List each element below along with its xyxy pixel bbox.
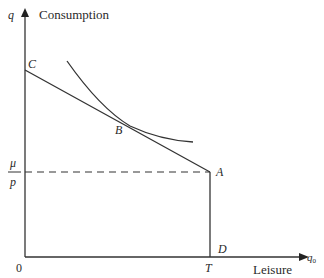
point-c-label: C xyxy=(28,57,37,71)
indifference-curve xyxy=(67,61,193,142)
x-tick-t: T xyxy=(205,261,213,275)
point-d-label: D xyxy=(217,242,227,256)
p-denominator: p xyxy=(9,175,16,189)
y-axis-symbol: q xyxy=(8,8,14,22)
y-axis-label: Consumption xyxy=(39,7,110,22)
x-axis-subscript: 0 xyxy=(313,257,317,265)
mu-numerator: μ xyxy=(9,156,16,170)
budget-line xyxy=(25,70,210,172)
x-axis-label: Leisure xyxy=(253,262,292,277)
point-b-label: B xyxy=(115,123,123,137)
x-axis-symbol: q0 xyxy=(307,251,317,265)
point-a-label: A xyxy=(215,165,224,179)
leisure-consumption-diagram: q Consumption C B A D μ p 0 T Leisure q0 xyxy=(0,0,324,278)
origin-label: 0 xyxy=(16,261,22,275)
y-axis-arrow-icon xyxy=(21,8,29,17)
